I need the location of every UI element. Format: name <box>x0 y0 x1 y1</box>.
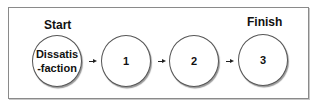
finish-label: Finish <box>247 15 282 29</box>
node-dissatisfaction: Dissatis -faction <box>32 35 82 87</box>
arrow-icon <box>226 60 234 63</box>
node-step-2: 2 <box>169 35 219 87</box>
node-label: 1 <box>123 54 129 68</box>
node-label: Dissatis -faction <box>36 47 78 75</box>
node-label: 3 <box>260 53 266 67</box>
node-step-1: 1 <box>101 35 151 87</box>
arrow-icon <box>158 60 166 63</box>
node-step-3: 3 <box>238 34 288 86</box>
arrow-icon <box>89 60 97 63</box>
start-label: Start <box>44 18 71 32</box>
node-label: 2 <box>191 54 197 68</box>
